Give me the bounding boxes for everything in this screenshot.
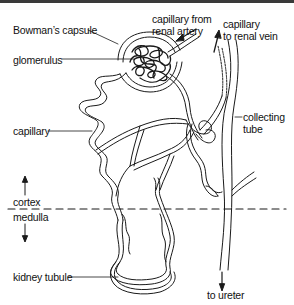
collecting-tube — [206, 40, 256, 270]
label-capillary-to-vein-line1: capillary — [223, 18, 260, 30]
peritubular-capillary-network — [96, 96, 226, 197]
nephron-drawing — [0, 0, 294, 305]
nephron-diagram: Bowman’s capsule glomerulus capillary fr… — [0, 0, 294, 305]
label-medulla: medulla — [13, 211, 48, 223]
glomerulus — [130, 46, 171, 82]
medulla-arrow-icon — [23, 224, 28, 242]
label-capillary: capillary — [13, 125, 50, 137]
label-to-ureter: to ureter — [207, 289, 244, 301]
label-capillary-from-artery-line2: renal artery — [152, 25, 203, 37]
label-capillary-from-artery-line1: capillary from — [152, 13, 212, 25]
cortex-arrow-icon — [23, 176, 28, 195]
proximal-convoluted-tubule — [79, 73, 126, 220]
loop-of-henle — [110, 178, 175, 294]
label-glomerulus: glomerulus — [13, 54, 62, 66]
venous-capillary — [218, 46, 227, 98]
label-capillary-to-vein-line2: to renal vein — [223, 30, 278, 42]
label-collecting-tube-line2: tube — [243, 123, 263, 135]
bowmans-capsule — [118, 32, 182, 92]
label-bowmans-capsule: Bowman’s capsule — [13, 24, 97, 36]
label-cortex: cortex — [13, 196, 40, 208]
label-kidney-tubule: kidney tubule — [13, 271, 72, 283]
vein-arrow-icon — [214, 30, 221, 52]
label-collecting-tube-line1: collecting — [243, 111, 285, 123]
